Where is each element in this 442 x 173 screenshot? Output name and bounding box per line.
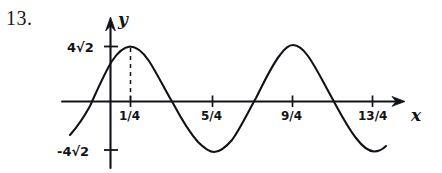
graph-figure: 4√2 -4√2 1/4 5/4 9/4 13/4 y x bbox=[0, 0, 442, 173]
y-axis-label: y bbox=[117, 9, 129, 29]
x-tick-label-2: 5/4 bbox=[201, 109, 222, 123]
sine-curve bbox=[70, 45, 386, 152]
y-tick-label-positive: 4√2 bbox=[67, 40, 94, 55]
x-tick-label-1: 1/4 bbox=[119, 109, 140, 123]
x-tick-label-3: 9/4 bbox=[281, 109, 302, 123]
x-tick-label-4: 13/4 bbox=[358, 109, 387, 123]
y-tick-label-negative: -4√2 bbox=[57, 144, 89, 159]
x-axis-label: x bbox=[410, 105, 422, 125]
